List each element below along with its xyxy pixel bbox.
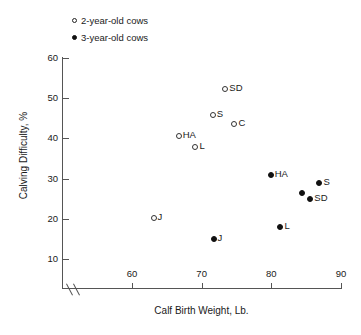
plot-area: 102030405060 60708090 SDSCHALJHASSDLJ Ca… (0, 0, 361, 335)
x-tick-label-70: 70 (190, 268, 214, 279)
open-circle-icon (210, 112, 216, 118)
scatter-plot-figure: 2-year-old cows 3-year-old cows 10203040… (0, 0, 361, 335)
filled-circle-icon (277, 224, 283, 230)
x-tick-80 (271, 283, 272, 289)
y-axis-title: Calving Difficulty, % (18, 76, 29, 236)
data-point-label: L (284, 220, 289, 231)
filled-circle-icon (316, 180, 322, 186)
y-tick-40 (63, 138, 69, 139)
y-tick-label-text: 30 (32, 174, 58, 184)
filled-circle-icon (211, 236, 217, 242)
open-circle-icon (231, 121, 237, 127)
axis-break-mark-2 (73, 284, 80, 296)
data-point-label: S (217, 108, 223, 119)
y-tick-label-text: 20 (32, 214, 58, 224)
open-circle-icon (192, 144, 198, 150)
y-tick-label-10: 10 (30, 254, 58, 264)
x-tick-label-60: 60 (120, 268, 144, 279)
open-circle-icon (151, 215, 157, 221)
y-tick-20 (63, 219, 69, 220)
filled-circle-icon (299, 190, 305, 196)
y-tick-50 (63, 98, 69, 99)
data-point-label: J (218, 232, 223, 243)
data-point-label: J (158, 211, 163, 222)
y-tick-label-60: 60 (30, 53, 58, 63)
x-tick-70 (202, 283, 203, 289)
open-circle-icon (222, 86, 228, 92)
y-tick-60 (63, 58, 69, 59)
y-tick-label-text: 40 (32, 133, 58, 143)
data-point-label: HA (275, 168, 288, 179)
y-tick-10 (63, 259, 69, 260)
open-circle-icon (176, 133, 182, 139)
x-tick-label-90: 90 (329, 268, 353, 279)
x-tick-90 (341, 283, 342, 289)
x-tick-60 (132, 283, 133, 289)
y-tick-label-text: 10 (32, 254, 58, 264)
y-axis-line (62, 57, 63, 289)
y-tick-label-text: 60 (32, 53, 58, 63)
data-point-label: SD (229, 82, 242, 93)
data-point-label: SD (314, 192, 327, 203)
y-tick-label-20: 20 (30, 214, 58, 224)
axis-break-mark-1 (66, 284, 73, 296)
y-tick-label-50: 50 (30, 93, 58, 103)
filled-circle-icon (307, 196, 313, 202)
x-tick-label-80: 80 (259, 268, 283, 279)
y-tick-label-40: 40 (30, 133, 58, 143)
y-tick-label-30: 30 (30, 174, 58, 184)
data-point-label: L (199, 140, 204, 151)
y-tick-label-text: 50 (32, 93, 58, 103)
x-axis-title: Calf Birth Weight, Lb. (62, 305, 341, 316)
data-point-label: S (323, 176, 329, 187)
data-point-label: C (238, 117, 245, 128)
data-point-label: HA (183, 129, 196, 140)
filled-circle-icon (268, 172, 274, 178)
y-tick-30 (63, 179, 69, 180)
